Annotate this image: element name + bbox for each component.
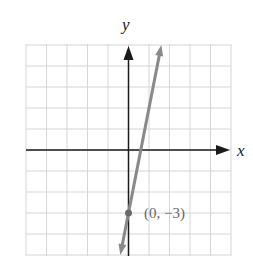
line-arrow-down-icon bbox=[118, 243, 126, 255]
point-label: (0, −3) bbox=[144, 205, 185, 222]
x-axis-label: x bbox=[236, 141, 245, 160]
x-axis-arrow-icon bbox=[216, 145, 230, 155]
intercept-point bbox=[125, 210, 132, 217]
coordinate-plane: y x (0, −3) bbox=[0, 0, 253, 263]
y-axis-label: y bbox=[120, 15, 130, 34]
y-axis-arrow-icon bbox=[124, 46, 134, 60]
line-arrow-up-icon bbox=[155, 45, 163, 57]
